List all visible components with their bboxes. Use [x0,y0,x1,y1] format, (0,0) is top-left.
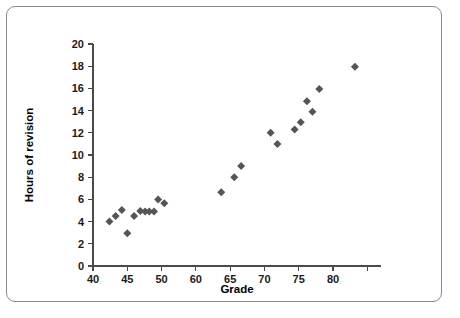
data-point [154,195,162,203]
y-tick-label: 6 [78,193,84,205]
data-point [273,140,281,148]
y-tick-label: 12 [72,127,84,139]
data-point [150,208,158,216]
data-point [118,206,126,214]
data-point [217,188,225,196]
data-point [112,212,120,220]
data-point [267,129,275,137]
data-point [123,229,131,237]
chart-frame: 4045506065707580 02468101214161820 Grade… [6,6,442,302]
data-point [315,85,323,93]
axis-lines [93,44,381,266]
y-tick-labels: 02468101214161820 [72,38,85,272]
x-tick-label: 70 [258,273,270,285]
x-tick-label: 40 [87,273,99,285]
data-point [351,63,359,71]
axes [93,44,381,266]
x-tick-label: 45 [121,273,133,285]
data-point [130,212,138,220]
data-point [237,162,245,170]
data-point [291,125,299,133]
data-point [297,118,305,126]
data-point [105,218,113,226]
data-point [308,108,316,116]
y-tick-label: 4 [78,216,85,228]
y-tick-label: 2 [78,238,84,250]
y-tick-label: 10 [72,149,84,161]
axis-ticks [88,44,367,271]
x-tick-label: 75 [293,273,305,285]
y-tick-label: 18 [72,60,84,72]
data-points [105,63,358,238]
data-point [230,173,238,181]
y-axis-title: Hours of revision [23,108,35,203]
x-tick-label: 80 [327,273,339,285]
y-tick-label: 20 [72,38,84,50]
x-tick-labels: 4045506065707580 [87,273,339,285]
data-point [303,97,311,105]
y-tick-label: 0 [78,260,84,272]
x-tick-label: 60 [190,273,202,285]
data-point [160,199,168,207]
y-tick-label: 16 [72,82,84,94]
y-tick-label: 8 [78,171,84,183]
scatter-plot: 4045506065707580 02468101214161820 Grade… [7,7,443,303]
x-tick-label: 50 [155,273,167,285]
x-axis-title: Grade [220,283,253,295]
y-tick-label: 14 [72,105,85,117]
